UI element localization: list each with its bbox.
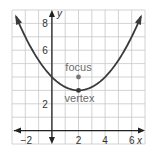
x-axis-arrow-right-icon — [138, 128, 145, 134]
y-tick-label: 2 — [42, 99, 48, 110]
focus-point — [76, 75, 81, 80]
focus-label: focus — [65, 61, 92, 73]
x-axis-label: x — [136, 135, 143, 146]
y-axis-label: y — [56, 8, 63, 19]
y-tick-label: 8 — [42, 18, 48, 29]
x-axis-arrow-left-icon — [14, 128, 21, 134]
vertex-label: vertex — [65, 92, 95, 104]
y-tick-label: 6 — [42, 45, 48, 56]
parabola-chart: focus vertex x y −2 2 4 6 2 6 8 — [0, 0, 154, 151]
x-tick-label: −2 — [21, 135, 33, 146]
y-axis-arrow-up-icon — [49, 10, 55, 17]
x-tick-label: 4 — [102, 135, 108, 146]
x-tick-label: 2 — [76, 135, 82, 146]
x-tick-label: 6 — [129, 135, 135, 146]
y-axis-arrow-down-icon — [49, 137, 55, 144]
